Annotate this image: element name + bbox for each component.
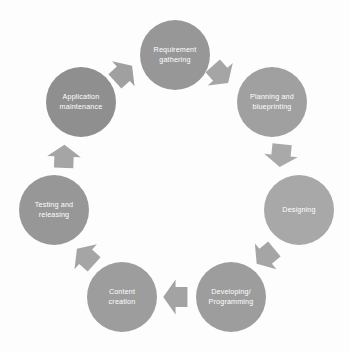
arrow-testing-to-maintenance-icon: [47, 144, 81, 168]
arrow-shape: [263, 142, 299, 168]
process-step-testing-and-releasing[interactable]: Testing andreleasing: [19, 175, 89, 245]
step-label-line: Designing: [282, 205, 315, 214]
step-label-line: releasing: [39, 210, 70, 219]
step-label-line: creation: [109, 297, 136, 306]
step-label-line: maintenance: [60, 102, 103, 111]
arrow-shape: [47, 144, 81, 168]
process-step-requirement-gathering[interactable]: Requirementgathering: [140, 20, 210, 90]
step-label-line: Programming: [209, 297, 254, 306]
step-label-line: Application: [63, 92, 100, 101]
process-step-designing[interactable]: Designing: [264, 175, 334, 245]
step-label-line: blueprinting: [253, 102, 292, 111]
process-step-planning-and-blueprinting[interactable]: Planning andblueprinting: [237, 67, 307, 137]
process-step-content-creation[interactable]: Contentcreation: [87, 262, 157, 332]
step-label-line: Developing/: [211, 287, 251, 296]
process-step-developing-programming[interactable]: Developing/Programming: [196, 262, 266, 332]
nodes-layer: RequirementgatheringPlanning andblueprin…: [19, 20, 334, 332]
arrow-planning-to-designing-icon: [263, 142, 299, 168]
step-label-line: gathering: [159, 55, 190, 64]
step-label-line: Requirement: [154, 45, 197, 54]
cycle-canvas: RequirementgatheringPlanning andblueprin…: [0, 0, 349, 352]
step-label-line: Planning and: [250, 92, 294, 101]
arrow-shape: [163, 279, 187, 314]
step-label-line: Testing and: [35, 200, 73, 209]
process-cycle-diagram: RequirementgatheringPlanning andblueprin…: [0, 0, 349, 352]
step-label-line: Content: [109, 287, 135, 296]
arrow-developing-to-content-icon: [163, 279, 187, 314]
process-step-application-maintenance[interactable]: Applicationmaintenance: [46, 67, 116, 137]
